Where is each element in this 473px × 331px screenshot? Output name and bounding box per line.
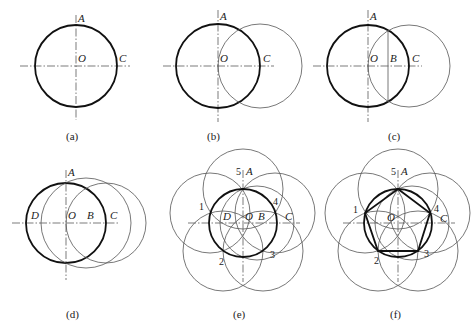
vertex-3: 3 xyxy=(424,248,429,259)
label-c: C xyxy=(110,209,118,221)
label-b: B xyxy=(258,210,265,222)
vertex-2: 2 xyxy=(374,255,379,266)
panel-b: A O C (b) xyxy=(163,10,302,143)
vertex-2: 2 xyxy=(219,256,224,267)
label-c: C xyxy=(119,52,127,64)
caption-d: (d) xyxy=(66,308,79,321)
vertex-4: 4 xyxy=(434,203,439,214)
label-d: D xyxy=(30,209,39,221)
caption-c: (c) xyxy=(388,130,401,143)
label-a: A xyxy=(369,10,377,22)
label-a: A xyxy=(219,10,227,22)
label-o: O xyxy=(68,209,76,221)
label-a: A xyxy=(67,166,75,178)
label-o: O xyxy=(220,52,228,64)
label-o: O xyxy=(370,52,378,64)
caption-e: (e) xyxy=(233,308,246,321)
caption-f: (f) xyxy=(390,308,401,321)
vertex-5: 5 xyxy=(391,166,396,177)
pentagon-construction-figure: A O C (a) A O C (b) A O B C (c) A D O xyxy=(0,0,473,331)
label-b: B xyxy=(390,52,397,64)
label-a: A xyxy=(77,12,85,24)
label-o: O xyxy=(78,52,86,64)
caption-b: (b) xyxy=(207,130,220,143)
panel-f: 5 A 4 1 O C 3 2 (f) xyxy=(325,149,470,321)
label-b: B xyxy=(87,209,94,221)
caption-a: (a) xyxy=(66,130,79,143)
label-c: C xyxy=(440,212,448,224)
label-a: A xyxy=(400,165,408,177)
label-o: O xyxy=(387,211,395,223)
panel-d: A D O B C (d) xyxy=(12,166,146,321)
label-c: C xyxy=(263,52,271,64)
label-a: A xyxy=(245,165,253,177)
label-d: D xyxy=(222,210,231,222)
vertex-1: 1 xyxy=(199,201,204,212)
panel-c: A O B C (c) xyxy=(313,10,450,143)
panel-e: 5 A 4 1 D O B C 3 2 (e) xyxy=(170,149,315,321)
vertex-3: 3 xyxy=(270,249,275,260)
vertex-1: 1 xyxy=(353,204,358,215)
label-c: C xyxy=(285,210,293,222)
label-c: C xyxy=(412,52,420,64)
panel-a: A O C (a) xyxy=(20,12,130,143)
vertex-5: 5 xyxy=(236,166,241,177)
label-o: O xyxy=(245,210,253,222)
vertex-4: 4 xyxy=(273,196,278,207)
